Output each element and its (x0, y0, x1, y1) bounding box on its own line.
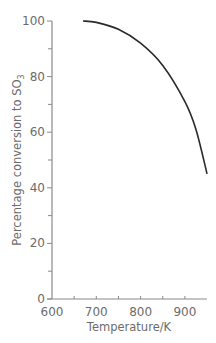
y-tick-label: 20 (30, 236, 45, 250)
x-axis-title: Temperature/K (86, 320, 172, 334)
conversion-chart: 020406080100600700800900 Temperature/K P… (0, 0, 216, 343)
y-tick-label: 80 (30, 70, 45, 84)
x-tick-label: 700 (85, 305, 108, 319)
y-tick-label: 0 (37, 292, 45, 306)
y-axis-title-subscript: 3 (17, 74, 26, 79)
y-axis-title-main: Percentage conversion to SO (10, 79, 24, 245)
conversion-curve (83, 21, 207, 174)
x-tick-label: 600 (41, 305, 64, 319)
y-axis-title: Percentage conversion to SO3 (10, 74, 26, 245)
axes (47, 21, 207, 299)
y-tick-label: 60 (30, 125, 45, 139)
y-tick-label: 100 (22, 14, 45, 28)
x-tick-label: 800 (129, 305, 152, 319)
x-tick-label: 900 (173, 305, 196, 319)
ticks: 020406080100600700800900 (22, 14, 196, 319)
y-tick-label: 40 (30, 181, 45, 195)
